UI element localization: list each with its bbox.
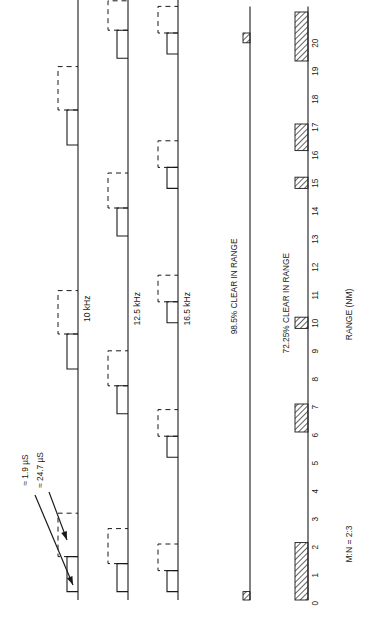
range-axis-tick-13: 13 [310,234,320,244]
range-axis-tick-16: 16 [310,150,320,160]
trace-16_5khz-solid-pulse [167,436,178,457]
clear-98-5-label: 98.5% CLEAR IN RANGE [229,238,239,334]
figure-canvas: 10 kHz12.5 kHz16.5 kHz98.5% CLEAR IN RAN… [0,0,384,622]
clear-98-5-blocked-block [243,592,250,600]
trace-16_5khz-dashed-pulse [158,544,178,571]
trace-12_5khz-dashed-pulse [108,351,128,386]
clear-72-25-blocked-block [295,404,308,432]
pulse-period-label: ≈ 24.7 µS [35,452,45,488]
trace-10khz-solid-pulse [67,110,78,145]
clear-72-25-blocked-block [295,124,308,151]
trace-16_5khz-dashed-pulse [158,275,178,302]
pulse-width-label: ≈ 1.9 µS [20,454,30,485]
trace-16_5khz [158,0,178,600]
trace-12_5khz-solid-pulse [117,386,128,414]
trace-16_5khz-solid-pulse [167,302,178,323]
range-axis-tick-12: 12 [310,262,320,272]
clear-72-25 [295,6,308,600]
range-axis-label: RANGE (NM) [344,289,354,341]
range-axis-tick-7: 7 [310,405,320,410]
trace-10khz-solid-pulse [67,334,78,369]
trace-16_5khz-dashed-pulse [158,6,178,33]
range-axis-tick-11: 11 [310,291,320,300]
range-axis-tick-18: 18 [310,94,320,104]
trace-16_5khz-solid-pulse [167,33,178,54]
range-axis-tick-20: 20 [310,38,320,48]
clear-72-25-blocked-block [295,543,308,600]
trace-12_5khz-solid-pulse [117,208,128,236]
clear-72-25-blocked-block [295,177,308,188]
trace-10khz-dashed-pulse [58,513,78,556]
range-axis-tick-10: 10 [310,318,320,328]
timing-interference-diagram: 10 kHz12.5 kHz16.5 kHz98.5% CLEAR IN RAN… [0,0,384,622]
trace-16_5khz-solid-pulse [167,167,178,188]
range-axis-tick-15: 15 [310,178,320,188]
range-axis-tick-1: 1 [310,573,320,578]
trace-10khz-dashed-pulse [58,67,78,110]
trace-16_5khz-dashed-pulse [158,410,178,437]
clear-72-25-blocked-block [295,317,308,328]
range-axis-tick-19: 19 [310,66,320,76]
clear-72-25-blocked-block [295,12,308,61]
range-axis-tick-3: 3 [310,517,320,522]
pulse-width-arrow [35,495,73,585]
range-axis-tick-2: 2 [310,545,320,550]
trace-12_5khz-solid-pulse [117,564,128,592]
range-axis-tick-8: 8 [310,377,320,382]
trace-16_5khz-label: 16.5 kHz [182,292,192,326]
trace-12_5khz-dashed-pulse [108,529,128,564]
trace-16_5khz-dashed-pulse [158,141,178,168]
pulse-period-arrow-head [61,531,67,540]
range-axis-tick-5: 5 [310,461,320,466]
range-axis-tick-14: 14 [310,206,320,216]
range-axis-tick-9: 9 [310,349,320,354]
pulse-width-arrow-head [67,576,73,585]
ratio-note: M:N = 2:3 [344,525,354,562]
clear-72-25-label: 72.25% CLEAR IN RANGE [281,252,291,353]
trace-12_5khz-dashed-pulse [108,173,128,208]
trace-12_5khz-label: 12.5 kHz [132,292,142,326]
range-axis-tick-4: 4 [310,489,320,494]
range-axis-tick-0: 0 [310,601,320,606]
trace-10khz-label: 10 kHz [82,296,92,322]
trace-10khz [58,0,78,600]
trace-10khz-dashed-pulse [58,291,78,334]
range-axis-tick-17: 17 [310,122,320,132]
trace-16_5khz-solid-pulse [167,571,178,592]
range-axis-tick-6: 6 [310,433,320,438]
clear-98-5-blocked-block [243,33,250,43]
trace-12_5khz [108,0,128,600]
trace-12_5khz-dashed-pulse [108,1,128,30]
trace-12_5khz-solid-pulse [117,30,128,58]
clear-98-5 [243,6,250,600]
